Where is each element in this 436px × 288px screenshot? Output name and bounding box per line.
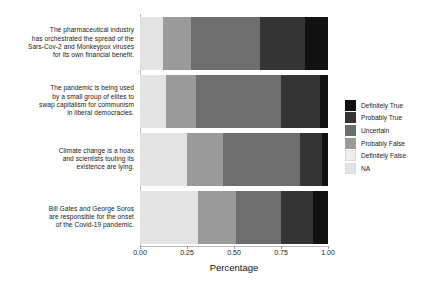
chart-container: The pharmaceutical industryhas orchestra…	[0, 0, 436, 288]
x-axis-ticks: 0.000.250.500.751.00	[140, 246, 328, 260]
legend-swatch	[345, 112, 356, 123]
y-axis-label: Climate change is a hoaxand scientists t…	[8, 147, 134, 172]
y-axis-label-line: swap capitalism for communism	[8, 101, 134, 109]
legend-swatch	[345, 138, 356, 149]
y-axis-label-line: Sars-Cov-2 and Monkeypox viruses	[8, 43, 134, 51]
y-axis-label-line: Bill Gates and George Soros	[8, 205, 134, 213]
legend-item[interactable]: NA	[345, 162, 406, 175]
legend-label: NA	[361, 165, 370, 172]
bar-row	[140, 191, 328, 244]
bar-segment	[191, 17, 261, 70]
bar-segment	[223, 133, 300, 186]
y-axis-label: The pharmaceutical industryhas orchestra…	[8, 26, 134, 59]
bar-segment	[305, 17, 328, 70]
y-axis-label-line: The pharmaceutical industry	[8, 26, 134, 34]
y-axis-label-line: and scientists touting its	[8, 155, 134, 163]
legend-swatch	[345, 125, 356, 136]
legend-item[interactable]: Uncertain	[345, 124, 406, 137]
bar-segment	[320, 75, 328, 128]
x-axis-tick-label: 0.50	[227, 249, 241, 256]
y-axis-label-line: of the Covid-19 pandemic.	[8, 221, 134, 229]
bar-segment	[140, 133, 187, 186]
y-axis-label-line: by a small group of elites to	[8, 93, 134, 101]
bar-segment	[198, 191, 236, 244]
bar-row	[140, 133, 328, 186]
bar-segment	[322, 133, 328, 186]
legend-label: Definitely False	[361, 152, 406, 159]
y-axis-label: The pandemic is being usedby a small gro…	[8, 84, 134, 117]
x-axis-title: Percentage	[140, 262, 328, 273]
bar-segment	[140, 17, 163, 70]
bar-segment	[140, 191, 199, 244]
y-axis-label-line: in liberal democracies.	[8, 109, 134, 117]
x-axis-tick-label: 0.75	[274, 249, 288, 256]
y-axis-label-line: has orchestrated the spread of the	[8, 35, 134, 43]
legend: Definitely TrueProbably TrueUncertainPro…	[345, 99, 406, 175]
legend-swatch	[345, 150, 356, 161]
bar-segment	[260, 17, 306, 70]
bar-segment	[281, 75, 321, 128]
x-axis-tick-label: 0.25	[180, 249, 194, 256]
bar-segment	[300, 133, 323, 186]
bar-segment	[140, 75, 167, 128]
y-axis-label-line: for its own financial benefit.	[8, 51, 134, 59]
legend-swatch	[345, 163, 356, 174]
y-axis-label-line: existence are lying.	[8, 163, 134, 171]
y-axis-label-line: The pandemic is being used	[8, 84, 134, 92]
legend-label: Probably True	[361, 114, 402, 121]
bar-segment	[281, 191, 313, 244]
y-axis-label-line: are responsible for the onset	[8, 213, 134, 221]
bar-segment	[166, 75, 196, 128]
y-axis-category-labels: The pharmaceutical industryhas orchestra…	[8, 14, 134, 246]
legend-swatch	[345, 100, 356, 111]
legend-item[interactable]: Definitely False	[345, 149, 406, 162]
y-axis-label-line: Climate change is a hoax	[8, 147, 134, 155]
x-axis-tick-label: 1.00	[321, 249, 335, 256]
legend-label: Uncertain	[361, 127, 389, 134]
legend-label: Probably False	[361, 140, 405, 147]
plot-panel	[140, 14, 328, 246]
bar-segment	[236, 191, 282, 244]
bar-segment	[163, 17, 192, 70]
legend-item[interactable]: Probably False	[345, 137, 406, 150]
legend-item[interactable]: Definitely True	[345, 99, 406, 112]
y-axis-label: Bill Gates and George Sorosare responsib…	[8, 205, 134, 230]
bar-segment	[196, 75, 281, 128]
bar-segment	[313, 191, 328, 244]
legend-label: Definitely True	[361, 102, 403, 109]
bar-row	[140, 17, 328, 70]
legend-item[interactable]: Probably True	[345, 112, 406, 125]
bar-segment	[187, 133, 223, 186]
x-axis-tick-label: 0.00	[133, 249, 147, 256]
bar-row	[140, 75, 328, 128]
